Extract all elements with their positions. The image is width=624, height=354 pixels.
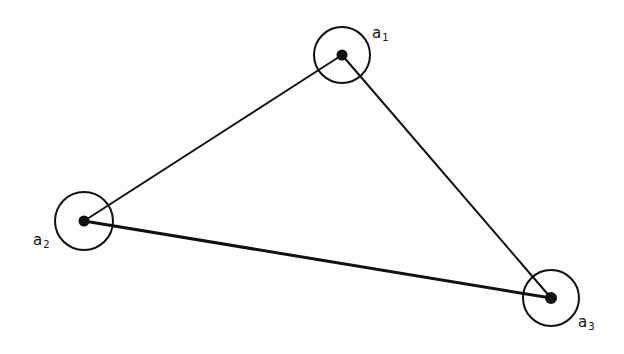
node-dot-a3 <box>545 292 557 304</box>
node-label-a3-sub: 3 <box>588 321 594 332</box>
node-a2 <box>55 192 113 250</box>
node-label-a1-sub: 1 <box>382 32 388 43</box>
node-a3 <box>523 270 579 326</box>
node-dot-a2 <box>79 216 90 227</box>
node-dot-a1 <box>337 50 348 61</box>
node-a1 <box>314 27 370 83</box>
node-label-a2: a2 <box>33 233 50 250</box>
node-label-a2-sub: 2 <box>43 239 49 250</box>
node-label-a1-base: a <box>372 24 381 42</box>
edge-a1-a2 <box>84 55 342 221</box>
node-label-a3: a3 <box>578 315 595 332</box>
edge-a1-a3 <box>342 55 551 298</box>
node-label-a2-base: a <box>33 231 42 249</box>
triangle-diagram <box>0 0 624 354</box>
edge-a2-a3 <box>84 221 551 298</box>
node-label-a3-base: a <box>578 313 587 331</box>
node-label-a1: a1 <box>372 26 389 43</box>
edges <box>84 55 551 298</box>
